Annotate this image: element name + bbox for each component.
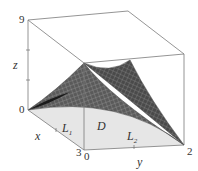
x-axis-label: x [35, 130, 40, 142]
line-l2-label: L2 [127, 130, 137, 145]
y-axis-start-label: 0 [84, 151, 90, 162]
line-l1-label: L1 [62, 122, 72, 137]
x-axis-end-label: 3 [76, 147, 82, 158]
z-axis-max-label: 9 [19, 14, 25, 25]
z-axis-label: z [13, 59, 18, 71]
y-axis-end-label: 2 [187, 146, 193, 157]
surface-plot-figure: 9 z 0 x 3 0 y 2 L1 D L2 [0, 0, 198, 171]
z-axis-origin-label: 0 [19, 104, 25, 115]
domain-d-label: D [97, 120, 106, 132]
plot-canvas [0, 0, 198, 171]
y-axis-label: y [137, 156, 142, 168]
